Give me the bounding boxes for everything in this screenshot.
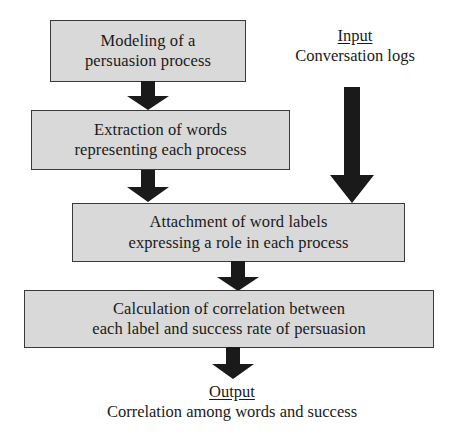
output-subtitle: Correlation among words and success <box>12 402 452 422</box>
input-title: Input <box>255 26 455 46</box>
process-box-calculation[interactable]: Calculation of correlation between each … <box>24 290 434 348</box>
output-title: Output <box>12 382 452 402</box>
output-label: Output Correlation among words and succe… <box>12 382 452 423</box>
process-box-extraction-label: Extraction of words representing each pr… <box>68 120 252 160</box>
arrow-modeling-to-extraction <box>126 81 170 111</box>
input-subtitle: Conversation logs <box>255 46 455 66</box>
process-box-attachment[interactable]: Attachment of word labels expressing a r… <box>72 203 405 262</box>
input-label: Input Conversation logs <box>255 26 455 67</box>
process-box-modeling[interactable]: Modeling of a persuasion process <box>50 20 246 82</box>
process-box-extraction[interactable]: Extraction of words representing each pr… <box>31 110 290 170</box>
arrow-calculation-to-output <box>211 347 255 380</box>
arrow-attachment-to-calculation <box>216 261 260 292</box>
process-box-calculation-label: Calculation of correlation between each … <box>86 299 371 339</box>
process-box-modeling-label: Modeling of a persuasion process <box>79 31 217 71</box>
arrow-input-to-attachment <box>328 87 376 204</box>
process-box-attachment-label: Attachment of word labels expressing a r… <box>122 212 354 252</box>
flowchart-diagram: Modeling of a persuasion process Extract… <box>0 0 464 445</box>
arrow-extraction-to-attachment <box>126 170 170 203</box>
